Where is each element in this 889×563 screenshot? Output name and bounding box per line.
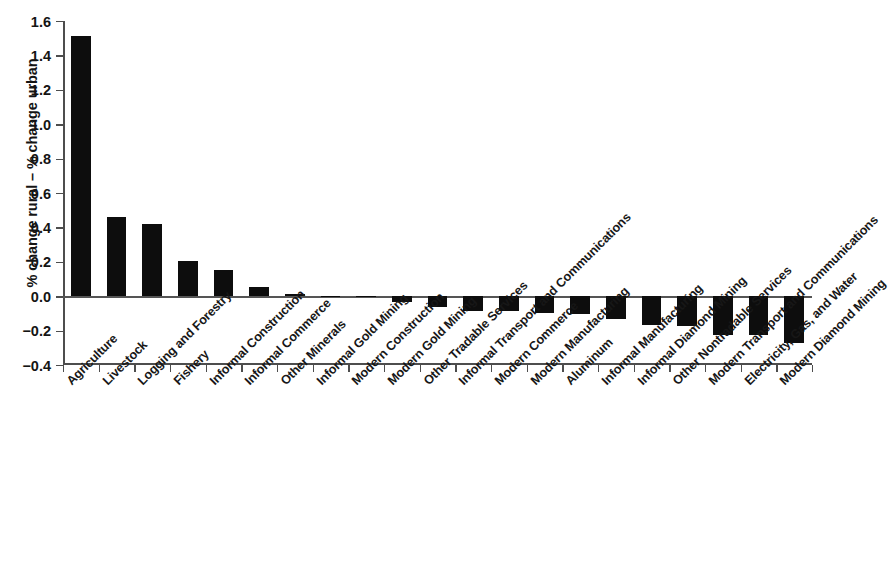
- x-axis-tick: [491, 365, 492, 372]
- x-axis-tick: [170, 365, 171, 372]
- y-axis-tick-label: 0.0: [31, 289, 51, 305]
- x-axis-tick: [669, 365, 670, 372]
- y-axis-tick: 1.2: [56, 90, 63, 91]
- x-axis-tick: [384, 365, 385, 372]
- bar: [321, 296, 341, 297]
- bar: [570, 296, 590, 314]
- bar: [606, 296, 626, 318]
- bar: [428, 296, 448, 306]
- x-axis-tick: [241, 365, 242, 372]
- bar: [535, 296, 555, 312]
- x-axis-tick: [206, 365, 207, 372]
- x-axis-tick: [562, 365, 563, 372]
- x-axis-tick: [705, 365, 706, 372]
- bar: [285, 294, 305, 296]
- y-axis-tick: 0.0: [56, 296, 63, 297]
- y-axis-tick: 0.2: [56, 262, 63, 263]
- bar: [249, 287, 269, 296]
- y-axis-tick: 0.4: [56, 227, 63, 228]
- x-axis-tick: [313, 365, 314, 372]
- bar: [214, 270, 234, 297]
- x-axis-tick: [63, 365, 64, 372]
- bar: [463, 296, 483, 311]
- bar: [784, 296, 804, 343]
- x-axis-tick: [134, 365, 135, 372]
- bar: [356, 296, 376, 297]
- y-axis-tick: 1.6: [56, 21, 63, 22]
- y-axis-tick: 0.6: [56, 193, 63, 194]
- y-axis-tick-label: 1.6: [31, 14, 51, 30]
- bar: [71, 36, 91, 296]
- y-axis-tick-label: 0.2: [31, 254, 51, 270]
- x-axis-tick: [812, 365, 813, 372]
- plot-area: 1.61.41.21.00.80.60.40.20.0−0.2−0.4: [63, 21, 812, 365]
- y-axis-tick: 0.8: [56, 159, 63, 160]
- bar: [749, 296, 769, 335]
- y-axis-tick: −0.2: [56, 331, 63, 332]
- y-axis-tick: 1.0: [56, 124, 63, 125]
- bar: [142, 224, 162, 296]
- y-axis-tick-label: −0.2: [22, 323, 51, 339]
- y-axis-tick: 1.4: [56, 55, 63, 56]
- y-axis-tick-label: 1.2: [31, 82, 51, 98]
- y-axis-tick-label: 1.0: [31, 117, 51, 133]
- x-axis-tick: [776, 365, 777, 372]
- bar: [713, 296, 733, 335]
- y-axis-line: [63, 21, 65, 365]
- y-axis-tick-label: 1.4: [31, 48, 51, 64]
- x-axis-tick: [527, 365, 528, 372]
- x-axis-tick: [348, 365, 349, 372]
- bar: [178, 261, 198, 296]
- y-axis-tick-label: 0.8: [31, 151, 51, 167]
- y-axis-tick-label: 0.4: [31, 220, 51, 236]
- x-axis-tick: [420, 365, 421, 372]
- x-axis-line: [63, 363, 812, 365]
- bar: [677, 296, 697, 326]
- bar: [392, 296, 412, 302]
- y-axis-tick-label: −0.4: [22, 358, 51, 374]
- y-axis-title: % change rural – % change urban: [24, 23, 40, 323]
- y-axis-tick: −0.4: [56, 365, 63, 366]
- x-axis-tick: [277, 365, 278, 372]
- x-axis-tick: [634, 365, 635, 372]
- bar: [107, 217, 127, 296]
- bar: [499, 296, 519, 311]
- x-axis-tick: [598, 365, 599, 372]
- x-axis-tick: [455, 365, 456, 372]
- x-axis-tick: [741, 365, 742, 372]
- bar: [642, 296, 662, 324]
- y-axis-tick-label: 0.6: [31, 186, 51, 202]
- x-axis-tick: [99, 365, 100, 372]
